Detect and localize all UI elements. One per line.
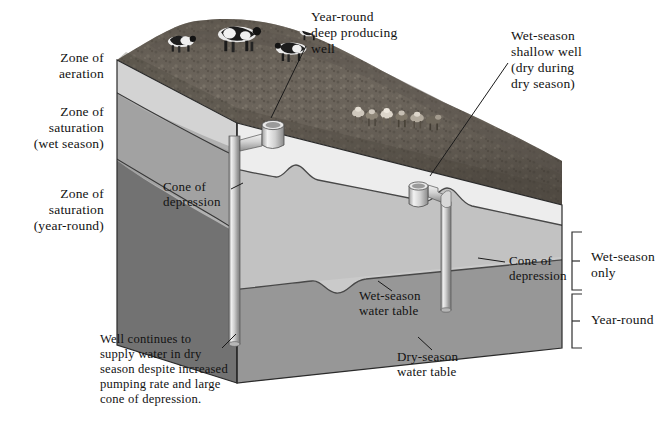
- wet-season-water-table-label: Wet-season water table: [359, 288, 469, 319]
- cone-of-depression-left-label: Cone of depression: [163, 179, 253, 210]
- zone-brackets: [572, 232, 582, 348]
- deep-well-callout-label: Year-round deep producing well: [311, 9, 441, 57]
- dry-season-water-table-label: Dry-season water table: [397, 349, 507, 380]
- shallow-well-callout-label: Wet-season shallow well (dry during dry …: [511, 28, 643, 92]
- well-continues-note-label: Well continues to supply water in dry se…: [100, 332, 290, 408]
- zone-of-aeration-label: Zone of aeration: [0, 50, 104, 82]
- deep-wellhead: [262, 120, 284, 148]
- shallow-wellhead: [409, 182, 428, 207]
- cone-of-depression-right-label: Cone of depression: [509, 253, 601, 284]
- zone-of-saturation-year-round-label: Zone of saturation (year-round): [0, 186, 104, 234]
- bracket-wet-season-only-label: Wet-season only: [591, 249, 667, 281]
- zone-of-saturation-wet-label: Zone of saturation (wet season): [0, 104, 104, 152]
- bracket-year-round-label: Year-round: [591, 312, 667, 328]
- figure-canvas: Zone of aeration Zone of saturation (wet…: [0, 0, 668, 430]
